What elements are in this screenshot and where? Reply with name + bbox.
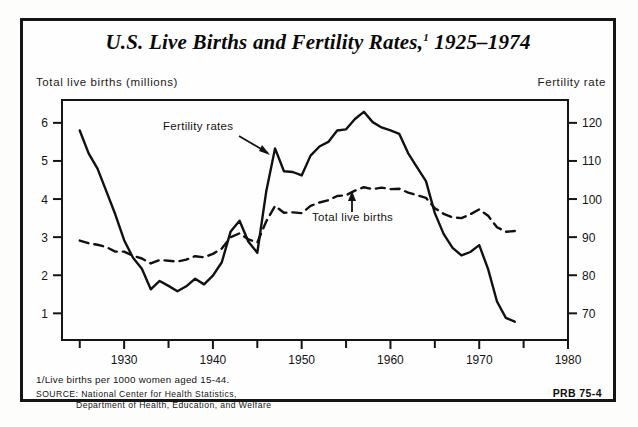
- x-tick-label: 1930: [111, 353, 138, 367]
- y-tick-label-right: 120: [582, 116, 602, 130]
- y-tick-label-left: 1: [41, 307, 48, 321]
- y-tick-label-right: 100: [582, 193, 602, 207]
- series-line-total-live-births: [80, 187, 515, 263]
- y-tick-label-right: 70: [582, 307, 596, 321]
- figure-container: U.S. Live Births and Fertility Rates,1 1…: [0, 0, 638, 427]
- y-axis-right-ticks: 708090100110120: [568, 116, 602, 320]
- footnote-definition: 1/Live births per 1000 women aged 15-44.: [36, 374, 271, 386]
- x-axis-ticks: 193019401950196019701980: [80, 340, 582, 367]
- footnote-block: 1/Live births per 1000 women aged 15-44.…: [36, 374, 271, 411]
- y-tick-label-right: 80: [582, 269, 596, 283]
- source-line-2: Department of Health, Education, and Wel…: [36, 400, 271, 411]
- x-tick-label: 1960: [377, 353, 404, 367]
- x-tick-label: 1970: [466, 353, 493, 367]
- annotation-label-fertility-rates: Fertility rates: [163, 120, 233, 132]
- publisher-credit: PRB 75-4: [553, 387, 602, 399]
- y-tick-label-left: 5: [41, 154, 48, 168]
- source-label: SOURCE:: [36, 389, 78, 399]
- y-axis-left-ticks: 123456: [41, 116, 62, 320]
- y-tick-label-left: 3: [41, 231, 48, 245]
- y-tick-label-right: 90: [582, 231, 596, 245]
- y-tick-label-left: 4: [41, 193, 48, 207]
- y-tick-label-left: 2: [41, 269, 48, 283]
- annotation-label-total-live-births: Total live births: [312, 211, 393, 223]
- y-tick-label-left: 6: [41, 116, 48, 130]
- source-line-1: National Center for Health Statistics,: [78, 389, 236, 399]
- annotation-total-live-births: Total live births: [312, 191, 393, 223]
- x-tick-label: 1940: [200, 353, 227, 367]
- annotation-fertility-rates: Fertility rates: [163, 120, 270, 155]
- x-tick-label: 1950: [288, 353, 315, 367]
- annotation-arrow-fertility-head: [259, 145, 270, 155]
- y-tick-label-right: 110: [582, 154, 601, 168]
- chart-plot-area: 123456 708090100110120 19301940195019601…: [0, 0, 638, 427]
- source-note: SOURCE: National Center for Health Stati…: [36, 389, 271, 410]
- x-tick-label: 1980: [555, 353, 582, 367]
